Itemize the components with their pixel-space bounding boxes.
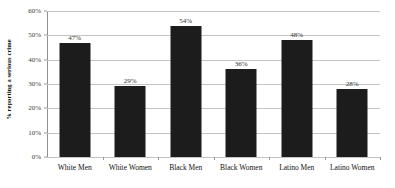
- y-axis-tick-mark: [44, 157, 47, 158]
- bar-group: 48%: [269, 11, 325, 157]
- y-axis-tick-label: 0%: [32, 153, 41, 161]
- y-axis-title: % reporting a serious crime: [0, 0, 16, 158]
- bar-value-label: 29%: [124, 77, 137, 85]
- x-axis-category-label: Latino Men: [279, 163, 314, 172]
- x-axis-tick-mark: [158, 157, 159, 160]
- plot-area: 47%29%54%36%48%28%: [47, 11, 380, 157]
- y-axis-tick-mark: [44, 35, 47, 36]
- y-axis-tick-label: 20%: [28, 104, 41, 112]
- x-axis-category-label: White Women: [109, 163, 152, 172]
- y-axis-title-text: % reporting a serious crime: [5, 39, 12, 120]
- bar-group: 28%: [325, 11, 381, 157]
- y-axis-tick-label: 40%: [28, 56, 41, 64]
- bar[interactable]: [226, 69, 257, 157]
- x-axis-tick-mark: [325, 157, 326, 160]
- y-axis-tick-mark: [44, 132, 47, 133]
- bar[interactable]: [115, 86, 146, 157]
- bar-value-label: 54%: [179, 17, 192, 25]
- bar-group: 29%: [103, 11, 159, 157]
- bar-value-label: 36%: [235, 60, 248, 68]
- bar[interactable]: [59, 43, 90, 157]
- y-axis-tick-mark: [44, 11, 47, 12]
- x-axis-category-label: Black Women: [220, 163, 262, 172]
- bar[interactable]: [337, 89, 368, 157]
- y-axis-tick-label: 50%: [28, 31, 41, 39]
- x-axis-category-label: Latino Women: [330, 163, 374, 172]
- x-axis-tick-mark: [214, 157, 215, 160]
- y-axis-tick-mark: [44, 84, 47, 85]
- x-axis-category-label: Black Men: [169, 163, 202, 172]
- bar-group: 54%: [158, 11, 214, 157]
- bar-group: 47%: [47, 11, 103, 157]
- x-axis-tick-mark: [380, 157, 381, 160]
- x-axis-category-label: White Men: [58, 163, 92, 172]
- bar-chart: % reporting a serious crime 0%10%20%30%4…: [0, 0, 395, 188]
- x-axis-tick-mark: [269, 157, 270, 160]
- y-axis-tick-label: 10%: [28, 129, 41, 137]
- bar-value-label: 28%: [346, 80, 359, 88]
- bar-value-label: 47%: [68, 34, 81, 42]
- y-axis-tick-mark: [44, 59, 47, 60]
- y-axis-tick-mark: [44, 108, 47, 109]
- y-axis-tick-label: 30%: [28, 80, 41, 88]
- bar-value-label: 48%: [290, 31, 303, 39]
- y-axis-tick-labels: 0%10%20%30%40%50%60%: [16, 0, 44, 163]
- bar-group: 36%: [214, 11, 270, 157]
- y-axis-tick-label: 60%: [28, 7, 41, 15]
- bar[interactable]: [281, 40, 312, 157]
- x-axis-tick-mark: [103, 157, 104, 160]
- bar[interactable]: [170, 26, 201, 157]
